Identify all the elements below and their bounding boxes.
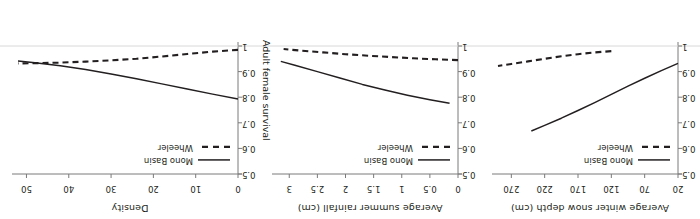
series-line-wheeler xyxy=(18,50,238,64)
panel-row: 20701201702202700.50.60.70.80.91Average … xyxy=(0,0,700,219)
chart-panel: 00.511.522.530.50.60.70.80.91Average sum… xyxy=(260,0,480,219)
x-tick-label: 270 xyxy=(491,184,531,194)
series-line-wheeler xyxy=(498,51,611,66)
x-tick-label: 20 xyxy=(133,184,173,194)
x-tick-label: 30 xyxy=(91,184,131,194)
y-tick-label: 0.8 xyxy=(682,93,700,103)
y-tick-label: 0.6 xyxy=(682,144,700,154)
chart-panel: 20701201702202700.50.60.70.80.91Average … xyxy=(480,0,700,219)
series-line-mono-basin xyxy=(281,61,450,103)
y-tick-label: 0.9 xyxy=(682,68,700,78)
y-tick-label: 1 xyxy=(242,42,262,52)
x-tick-label: 0 xyxy=(218,184,258,194)
legend-label-mono-basin: Mono Basin xyxy=(364,156,413,166)
series-line-mono-basin xyxy=(531,63,678,131)
y-tick-label: 0.9 xyxy=(242,68,262,78)
x-tick-label: 3 xyxy=(269,184,309,194)
legend-label-mono-basin: Mono Basin xyxy=(144,156,193,166)
y-tick-label: 0.5 xyxy=(242,170,262,180)
y-tick-label: 0.6 xyxy=(242,144,262,154)
x-tick-label: 50 xyxy=(6,184,46,194)
x-tick-label: 10 xyxy=(176,184,216,194)
y-tick-label: 1 xyxy=(462,42,482,52)
y-tick-label: 0.7 xyxy=(682,119,700,129)
y-tick-label: 0.5 xyxy=(462,170,482,180)
y-tick-label: 0.7 xyxy=(242,119,262,129)
x-axis-title: Density xyxy=(0,203,260,214)
y-tick-label: 0.7 xyxy=(462,119,482,129)
x-tick-label: 40 xyxy=(49,184,89,194)
y-tick-label: 0.8 xyxy=(242,93,262,103)
legend-label-wheeler: Wheeler xyxy=(598,143,633,153)
series-line-wheeler xyxy=(284,49,458,60)
x-axis-title: Average summer rainfall (cm) xyxy=(260,203,480,214)
y-axis-title: Adult female survival xyxy=(261,40,272,141)
x-axis-title: Average winter snow depth (cm) xyxy=(480,203,700,214)
y-tick-label: 0.8 xyxy=(462,93,482,103)
rotated-figure: 20701201702202700.50.60.70.80.91Average … xyxy=(0,0,700,219)
legend-label-wheeler: Wheeler xyxy=(378,143,413,153)
y-tick-label: 0.6 xyxy=(462,144,482,154)
legend-label-mono-basin: Mono Basin xyxy=(584,156,633,166)
chart-panel: 010203040500.50.60.70.80.91DensityAdult … xyxy=(0,0,260,219)
series-line-mono-basin xyxy=(18,61,238,99)
y-tick-label: 0.5 xyxy=(682,170,700,180)
y-tick-label: 0.9 xyxy=(462,68,482,78)
legend-label-wheeler: Wheeler xyxy=(158,143,193,153)
y-tick-label: 1 xyxy=(682,42,700,52)
